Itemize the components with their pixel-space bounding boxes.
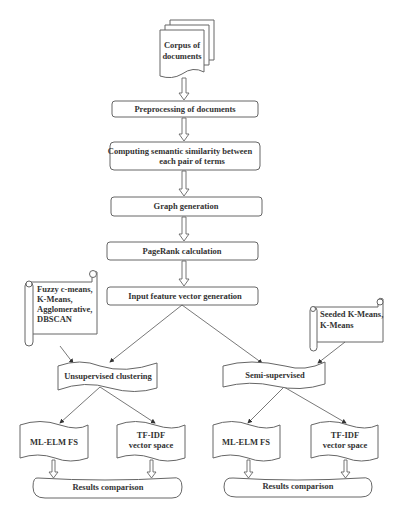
semantic-label-2: each pair of terms [159,156,225,166]
semi-tfidf-label-2: vector space [323,440,368,450]
doc-unsup-tfidf: TF-IDF vector space [117,422,185,462]
preprocessing-label: Preprocessing of documents [134,104,236,114]
process-input-vector: Input feature vector generation [107,287,258,305]
process-graph-generation: Graph generation [111,197,262,216]
process-semantic-similarity: Computing semantic similarity between ea… [108,142,260,170]
unsupervised-label: Unsupervised clustering [64,371,152,381]
graph-label: Graph generation [154,201,219,211]
process-preprocessing: Preprocessing of documents [112,101,258,117]
unsup-method-4: DBSCAN [37,314,73,324]
scroll-semisupervised-methods: Seeded K-Means, K-Means [310,298,383,351]
process-pagerank: PageRank calculation [107,242,258,260]
scroll-unsupervised-methods: Fuzzy c-means, K-Means, Agglomerative, D… [25,271,97,347]
semisup-method-2: K-Means [320,320,354,330]
semi-mlelm-label: ML-ELM FS [222,437,270,447]
unsup-mlelm-label: ML-ELM FS [30,437,78,447]
results-comparison-right: Results comparison [224,478,372,497]
semantic-label-1: Computing semantic similarity between [108,146,253,156]
doc-semi-mlelm: ML-ELM FS [213,422,280,462]
input-vector-label: Input feature vector generation [128,291,242,301]
doc-unsup-mlelm: ML-ELM FS [20,422,88,462]
unsup-tfidf-label-2: vector space [129,440,174,450]
unsup-method-1: Fuzzy c-means, [37,284,93,294]
semi-tfidf-label-1: TF-IDF [331,430,359,440]
unsup-method-3: Agglomerative, [37,304,92,314]
semisup-method-1: Seeded K-Means, [320,309,383,319]
result-arrows [49,460,350,478]
results-left-label: Results comparison [72,482,143,492]
doc-semi-tfidf: TF-IDF vector space [311,422,378,462]
unsup-method-2: K-Means, [37,294,73,304]
results-comparison-left: Results comparison [33,478,182,498]
flag-unsupervised-clustering: Unsupervised clustering [58,362,157,392]
corpus-label-1: Corpus of [164,40,200,50]
flowchart-diagram: Corpus of documents Preprocessing of doc… [0,0,402,517]
flag-semi-supervised: Semi-supervised [223,362,325,389]
results-right-label: Results comparison [262,481,333,491]
pagerank-label: PageRank calculation [142,246,221,256]
connector-lines [60,305,346,423]
semisupervised-label: Semi-supervised [245,370,305,380]
unsup-tfidf-label-1: TF-IDF [137,430,165,440]
corpus-documents-node: Corpus of documents [160,20,214,78]
corpus-label-2: documents [162,51,202,61]
